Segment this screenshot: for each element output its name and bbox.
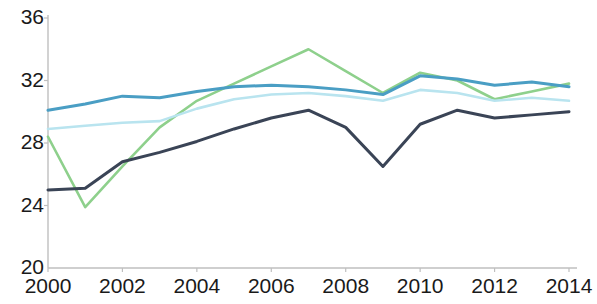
- y-tick-label: 24: [0, 193, 44, 217]
- x-tick-label: 2004: [157, 274, 237, 298]
- x-tick-label: 2002: [82, 274, 162, 298]
- x-tick-label: 2008: [306, 274, 386, 298]
- series-light-green: [48, 49, 569, 207]
- y-tick-label: 32: [0, 68, 44, 92]
- x-tick-label: 2006: [231, 274, 311, 298]
- y-tick-label: 36: [0, 5, 44, 29]
- y-tick-label: 28: [0, 130, 44, 154]
- series-lines: [48, 49, 569, 207]
- x-tick-label: 2010: [380, 274, 460, 298]
- x-tick-label: 2012: [455, 274, 535, 298]
- x-tick-label: 2000: [8, 274, 88, 298]
- x-tick-label: 2014: [529, 274, 597, 298]
- axis-ticks: [44, 18, 569, 272]
